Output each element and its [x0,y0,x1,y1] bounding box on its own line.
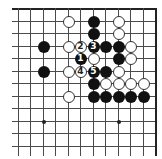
black-stone [38,66,50,78]
black-stone [138,91,150,103]
white-stone [113,16,125,28]
white-stone [63,91,75,103]
white-stone [113,66,125,78]
white-stone-move-4: 4 [75,66,87,78]
move-number: 2 [77,42,83,51]
grid-line-horizontal [12,21,156,22]
grid-line-vertical [80,8,81,156]
board-right-edge [155,8,157,156]
white-stone-move-2: 2 [75,41,87,53]
move-number: 3 [90,42,96,51]
black-stone [113,53,125,65]
grid-line-vertical [18,8,19,156]
board-top-edge [12,8,156,10]
black-stone [100,66,112,78]
white-stone [63,16,75,28]
grid-line-horizontal [12,108,156,109]
grid-line-vertical [43,8,44,156]
grid-line-horizontal [12,133,156,134]
black-stone [88,91,100,103]
move-number: 1 [77,54,83,63]
move-number: 5 [90,67,96,76]
white-stone [100,78,112,90]
white-stone [88,53,100,65]
black-stone-move-3: 3 [88,41,100,53]
black-stone [88,16,100,28]
black-stone [100,41,112,53]
black-stone [125,91,137,103]
grid-line-vertical [30,8,31,156]
white-stone [125,41,137,53]
black-stone [88,28,100,40]
star-point [42,120,46,124]
black-stone [113,41,125,53]
go-board-diagram: 23145 [0,0,162,159]
black-stone-move-5: 5 [88,66,100,78]
grid-line-vertical [55,8,56,156]
black-stone-move-1: 1 [75,53,87,65]
black-stone [113,91,125,103]
white-stone [125,78,137,90]
grid-line-horizontal [12,33,156,34]
white-stone [138,78,150,90]
move-number: 4 [77,67,83,76]
black-stone [88,78,100,90]
white-stone [125,53,137,65]
grid-line-vertical [68,8,69,156]
white-stone [63,66,75,78]
grid-line-horizontal [12,146,156,147]
white-stone [113,28,125,40]
grid-line-horizontal [12,121,156,122]
white-stone [113,78,125,90]
black-stone [100,91,112,103]
star-point [117,120,121,124]
white-stone [63,41,75,53]
black-stone [38,41,50,53]
